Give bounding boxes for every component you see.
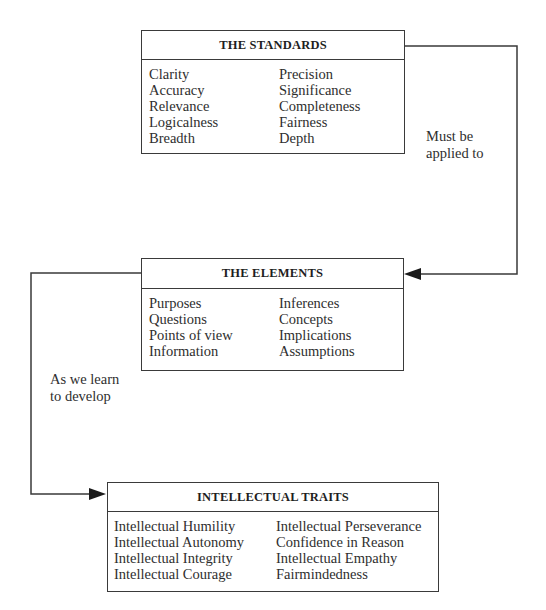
label-line: applied to bbox=[426, 145, 484, 162]
elements-left-column: Purposes Questions Points of view Inform… bbox=[149, 295, 233, 359]
arrowhead-icon bbox=[89, 488, 106, 500]
elements-right-column: Inferences Concepts Implications Assumpt… bbox=[279, 295, 355, 359]
list-item: Intellectual Integrity bbox=[114, 550, 244, 566]
standards-right-column: Precision Significance Completeness Fair… bbox=[279, 66, 360, 146]
list-item: Relevance bbox=[149, 98, 218, 114]
connector-label-applied: Must be applied to bbox=[426, 128, 484, 161]
list-item: Questions bbox=[149, 311, 233, 327]
standards-left-column: Clarity Accuracy Relevance Logicalness B… bbox=[149, 66, 218, 146]
traits-title: INTELLECTUAL TRAITS bbox=[108, 483, 438, 512]
list-item: Precision bbox=[279, 66, 360, 82]
label-line: As we learn bbox=[50, 371, 119, 388]
elements-box: THE ELEMENTS Purposes Questions Points o… bbox=[141, 258, 404, 371]
list-item: Completeness bbox=[279, 98, 360, 114]
label-line: Must be bbox=[426, 128, 484, 145]
connector-label-develop: As we learn to develop bbox=[50, 371, 119, 404]
list-item: Clarity bbox=[149, 66, 218, 82]
list-item: Significance bbox=[279, 82, 360, 98]
list-item: Fairmindedness bbox=[276, 566, 421, 582]
list-item: Intellectual Humility bbox=[114, 518, 244, 534]
elements-title: THE ELEMENTS bbox=[142, 259, 403, 289]
standards-box: THE STANDARDS Clarity Accuracy Relevance… bbox=[141, 30, 405, 154]
list-item: Depth bbox=[279, 130, 360, 146]
list-item: Concepts bbox=[279, 311, 355, 327]
list-item: Inferences bbox=[279, 295, 355, 311]
list-item: Breadth bbox=[149, 130, 218, 146]
list-item: Intellectual Autonomy bbox=[114, 534, 244, 550]
list-item: Information bbox=[149, 343, 233, 359]
traits-box: INTELLECTUAL TRAITS Intellectual Humilit… bbox=[107, 482, 439, 592]
list-item: Points of view bbox=[149, 327, 233, 343]
list-item: Accuracy bbox=[149, 82, 218, 98]
label-line: to develop bbox=[50, 388, 119, 405]
connector-standards-to-elements bbox=[404, 46, 517, 280]
list-item: Intellectual Perseverance bbox=[276, 518, 421, 534]
traits-left-column: Intellectual Humility Intellectual Auton… bbox=[114, 518, 244, 582]
arrowhead-icon bbox=[404, 268, 421, 280]
list-item: Logicalness bbox=[149, 114, 218, 130]
list-item: Purposes bbox=[149, 295, 233, 311]
list-item: Intellectual Courage bbox=[114, 566, 244, 582]
list-item: Assumptions bbox=[279, 343, 355, 359]
list-item: Confidence in Reason bbox=[276, 534, 421, 550]
list-item: Implications bbox=[279, 327, 355, 343]
traits-right-column: Intellectual Perseverance Confidence in … bbox=[276, 518, 421, 582]
list-item: Intellectual Empathy bbox=[276, 550, 421, 566]
list-item: Fairness bbox=[279, 114, 360, 130]
standards-title: THE STANDARDS bbox=[142, 31, 404, 60]
